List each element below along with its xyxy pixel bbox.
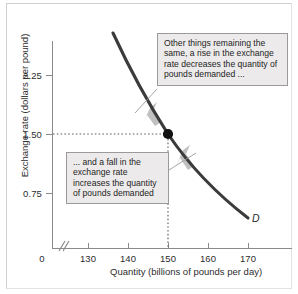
callout-rise-in-exchange-rate: Other things remaining the same, a rise … [157,33,288,86]
equilibrium-point-marker [163,129,173,139]
demand-curve-label: D [252,212,260,224]
demand-for-pounds-figure: 2.25 1.50 0.75 0 130 140 150 160 170 Exc… [0,0,298,294]
callout-fall-in-exchange-rate: ... and a fall in the exchange rate incr… [66,152,169,204]
x-axis-break-icon [59,241,69,251]
